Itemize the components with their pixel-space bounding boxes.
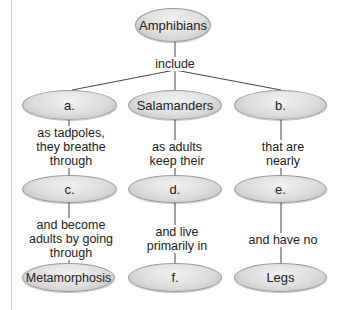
link-line: keep their [142, 154, 212, 168]
link-e-legs: and have no [243, 233, 323, 247]
link-line: nearly [253, 154, 313, 168]
link-line: and become [22, 218, 120, 232]
link-c-metamorphosis: and become adults by going through [20, 218, 122, 260]
link-line: as tadpoles, [24, 126, 118, 140]
link-line: through [22, 246, 120, 260]
link-line: adults by going [22, 232, 120, 246]
link-line: they breathe [24, 140, 118, 154]
node-e: e. [234, 175, 327, 203]
link-root-include: include [145, 57, 205, 71]
node-d: d. [128, 175, 222, 203]
link-line: and live [142, 225, 212, 239]
node-salamanders: Salamanders [128, 90, 222, 120]
link-d-f: and live primarily in [140, 225, 214, 253]
node-legs: Legs [234, 263, 327, 292]
node-root: Amphibians [135, 8, 211, 42]
link-salamanders-d: as adults keep their [140, 140, 214, 168]
link-line: primarily in [142, 239, 212, 253]
link-line: that are [253, 140, 313, 154]
link-a-c: as tadpoles, they breathe through [22, 126, 120, 168]
node-f: f. [128, 263, 222, 292]
node-metamorphosis: Metamorphosis [22, 263, 115, 292]
node-a: a. [22, 90, 117, 120]
link-line: through [24, 154, 118, 168]
link-line: and have no [245, 233, 321, 247]
link-b-e: that are nearly [251, 140, 315, 168]
node-b: b. [234, 90, 327, 120]
link-line: as adults [142, 140, 212, 154]
node-c: c. [22, 175, 117, 203]
